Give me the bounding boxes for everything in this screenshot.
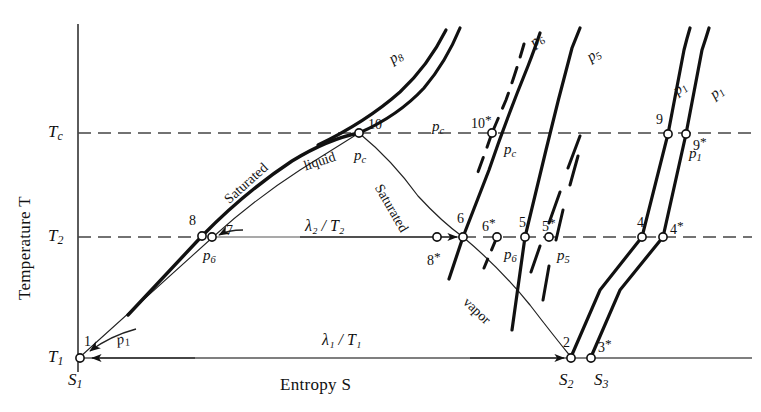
- isobar-p8-curve: [318, 30, 446, 145]
- state-point-label-2: 2: [563, 336, 570, 350]
- state-point-label-6*: 6*: [482, 216, 496, 234]
- state-point-label-10*: 10*: [471, 113, 492, 131]
- y-tick-T1: T1: [48, 348, 63, 368]
- x-tick-S3: S3: [594, 371, 608, 391]
- state-point-marker-3*[interactable]: [587, 354, 595, 362]
- state-point-marker-2[interactable]: [567, 354, 575, 362]
- state-point-marker-10[interactable]: [355, 129, 363, 137]
- state-point-marker-9[interactable]: [664, 130, 672, 138]
- state-point-marker-8*[interactable]: [433, 233, 441, 241]
- state-point-label-6: 6: [457, 212, 464, 226]
- state-point-label-4: 4: [637, 216, 644, 230]
- lambda2-over-T2-label: λ₂ / T₂: [305, 218, 344, 234]
- state-point-marker-6*[interactable]: [493, 233, 501, 241]
- p5-at-5star-label: p5: [557, 248, 570, 265]
- y-tick-T2: T2: [48, 227, 63, 247]
- pc-upper-label: pc: [432, 119, 444, 136]
- p6-at-6star-label: p6: [504, 247, 517, 264]
- state-point-label-8: 8: [189, 214, 196, 228]
- p6-at-7-label: p6: [203, 248, 216, 265]
- state-point-marker-4*[interactable]: [659, 233, 667, 241]
- state-point-label-7: 7: [226, 224, 233, 238]
- state-point-label-5*: 5*: [542, 216, 556, 234]
- state-point-marker-1[interactable]: [76, 354, 84, 362]
- state-point-label-8*: 8*: [427, 250, 441, 268]
- x-tick-S2: S2: [559, 371, 573, 391]
- x-tick-S1: S1: [68, 371, 82, 391]
- diagram-canvas: [0, 0, 761, 412]
- state-point-label-5: 5: [519, 216, 526, 230]
- state-point-markers: [76, 129, 690, 362]
- state-point-label-1: 1: [84, 335, 91, 349]
- state-point-marker-5[interactable]: [521, 233, 529, 241]
- pc-critical-label: pc: [354, 148, 366, 165]
- pc-star-label: pc: [504, 142, 516, 159]
- state-point-marker-5*[interactable]: [545, 233, 553, 241]
- state-point-marker-4[interactable]: [638, 233, 646, 241]
- state-point-marker-6[interactable]: [459, 233, 467, 241]
- lambda1-over-T1-label: λ₁ / T₁: [322, 332, 361, 348]
- state-point-label-3*: 3*: [598, 337, 612, 355]
- isobar-p6-star-dash-below: [484, 237, 497, 268]
- isobar-p6-star-dashed: [531, 136, 580, 272]
- state-point-label-9: 9: [656, 113, 663, 127]
- ts-diagram-figure: Temperature T Entropy S Tc T2 T1 S1 S2 S…: [0, 0, 761, 412]
- isobar-p1-outer-curve: [591, 28, 709, 357]
- state-point-label-9*: 9*: [693, 135, 707, 153]
- state-point-marker-7[interactable]: [208, 233, 216, 241]
- x-axis-title: Entropy S: [280, 376, 351, 393]
- state-point-marker-9*[interactable]: [682, 130, 690, 138]
- y-tick-Tc: Tc: [48, 123, 63, 143]
- y-axis-title: Temperature T: [16, 196, 33, 300]
- state-point-marker-8[interactable]: [198, 232, 206, 240]
- state-point-label-10: 10: [368, 118, 382, 132]
- state-point-label-4*: 4*: [670, 219, 684, 237]
